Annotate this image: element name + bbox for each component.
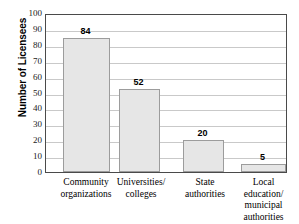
y-axis-tick-label: 10	[2, 152, 42, 161]
x-axis-category-label-line: Universities/	[106, 177, 176, 189]
y-axis-tick-label: 20	[2, 136, 42, 145]
x-axis-category-label: Localeducation/municipalauthorities	[228, 177, 299, 223]
bar-value-label: 84	[62, 26, 109, 36]
bar-value-label: 20	[182, 128, 223, 138]
bar	[241, 164, 286, 172]
bar	[119, 89, 160, 172]
y-axis-tick-label: 0	[2, 168, 42, 177]
y-axis-tick-label: 100	[2, 9, 42, 18]
y-axis-tick-labels: 1009080706050403020100	[0, 0, 42, 224]
x-axis-category-label-line: authorities	[228, 212, 299, 224]
y-axis-tick-label: 70	[2, 57, 42, 66]
x-axis-category-label-line: municipal	[228, 200, 299, 212]
bar-value-label: 5	[240, 152, 285, 162]
y-axis-tick-label: 60	[2, 73, 42, 82]
y-axis-tick-label: 50	[2, 89, 42, 98]
x-axis-category-label: Universities/colleges	[106, 177, 176, 200]
bar	[183, 140, 224, 172]
y-axis-tick-label: 40	[2, 104, 42, 113]
y-axis-tick-label: 90	[2, 25, 42, 34]
x-axis-category-label-line: Local	[228, 177, 299, 189]
bar-chart-figure: Number of Licensees 10090807060504030201…	[0, 0, 299, 224]
y-axis-tick-label: 30	[2, 120, 42, 129]
x-axis-category-label-line: education/	[228, 189, 299, 201]
x-axis-category-label-line: colleges	[106, 189, 176, 201]
bar-value-label: 52	[118, 77, 159, 87]
bar	[63, 38, 110, 172]
y-axis-tick-label: 80	[2, 41, 42, 50]
plot-area	[45, 14, 287, 173]
